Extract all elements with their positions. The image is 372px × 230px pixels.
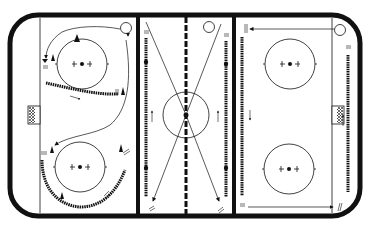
rink-svg xyxy=(0,0,372,230)
left-net-mesh xyxy=(29,107,35,123)
puck-icon xyxy=(224,166,228,170)
right-net-mesh xyxy=(337,107,343,123)
hockey-drill-diagram xyxy=(0,0,372,230)
left-start-marker xyxy=(121,23,132,34)
right-start-marker xyxy=(335,25,346,36)
puck-icon xyxy=(224,62,228,66)
right-blue-line xyxy=(232,16,236,214)
left-blue-line xyxy=(136,16,140,214)
puck-icon xyxy=(144,60,148,64)
puck-icon xyxy=(144,166,148,170)
neutral-start-marker xyxy=(204,22,215,33)
